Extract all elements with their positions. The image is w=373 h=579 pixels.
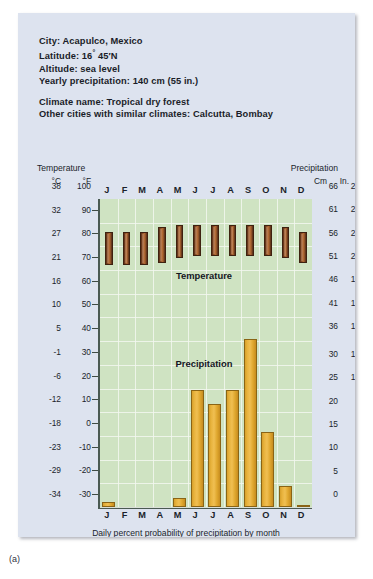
left-axis-tick-mark (92, 233, 98, 234)
left-axis-tick-mark (92, 447, 98, 448)
month-label: N (280, 510, 287, 520)
right-tick-cm: 51 (318, 251, 338, 261)
right-tick-inches: 0 (338, 489, 355, 499)
month-label: N (280, 185, 287, 195)
month-label: A (227, 510, 234, 520)
left-tick-fahrenheit: 40 (61, 323, 91, 333)
temperature-bar (229, 225, 236, 256)
right-tick-inches: 8 (338, 396, 355, 406)
temperature-bar-highlight (248, 227, 250, 254)
right-axis-tick-label: 5622 (318, 228, 355, 238)
left-tick-fahrenheit: 10 (61, 394, 91, 404)
right-tick-cm: 0 (318, 489, 338, 499)
left-tick-fahrenheit: 90 (61, 205, 91, 215)
temperature-bar-highlight (266, 227, 268, 254)
left-tick-celsius: -12 (39, 394, 61, 404)
month-label: A (157, 510, 164, 520)
temperature-bar (246, 225, 253, 256)
left-tick-celsius: 5 (39, 323, 61, 333)
temperature-bar-highlight (178, 227, 180, 256)
month-label: S (245, 510, 251, 520)
month-label: F (122, 510, 128, 520)
left-tick-celsius: 10 (39, 299, 61, 309)
month-label: D (298, 185, 305, 195)
month-label: J (104, 510, 109, 520)
left-axis-tick-label: 1050 (39, 299, 91, 309)
gridline-vertical (259, 199, 260, 507)
temperature-bar-highlight (195, 227, 197, 254)
header-spacer (39, 87, 339, 96)
left-tick-celsius: 32 (39, 205, 61, 215)
figure-root: City: Acapulco, Mexico Latitude: 16° 45′… (0, 0, 373, 579)
precipitation-bar (261, 432, 274, 507)
month-label: J (104, 185, 109, 195)
left-axis-tick-mark (92, 281, 98, 282)
right-tick-inches: 6 (338, 419, 355, 429)
left-axis-tick-label: -130 (39, 347, 91, 357)
gridline-horizontal (100, 507, 312, 508)
left-axis-tick-label: 3290 (39, 205, 91, 215)
left-tick-celsius: -18 (39, 418, 61, 428)
temperature-bar (193, 225, 200, 256)
right-axis-tick-label: 3012 (318, 349, 355, 359)
left-axis-tick-label: -180 (39, 418, 91, 428)
gridline-vertical (118, 199, 119, 507)
left-tick-fahrenheit: 70 (61, 252, 91, 262)
precipitation-bar (279, 486, 292, 507)
month-label: J (210, 185, 215, 195)
right-tick-cm: 61 (318, 204, 338, 214)
temperature-bar-highlight (301, 234, 303, 261)
right-axis-tick-label: 4618 (318, 274, 355, 284)
right-axis-caption: Precipitation (291, 163, 338, 173)
right-tick-cm: 25 (318, 372, 338, 382)
gridline-vertical (224, 199, 225, 507)
left-tick-fahrenheit: -20 (61, 465, 91, 475)
figure-label: (a) (9, 554, 20, 564)
temperature-bar (140, 232, 147, 265)
right-axis-tick-label: 2510 (318, 372, 355, 382)
right-axis-tick-label: 4116 (318, 298, 355, 308)
city-line: City: Acapulco, Mexico (39, 35, 339, 47)
right-tick-inches: 2 (338, 466, 355, 476)
temperature-series-label: Temperature (176, 270, 232, 281)
left-axis-tick-mark (92, 352, 98, 353)
month-label: A (157, 185, 164, 195)
temperature-bar (211, 225, 218, 256)
left-axis-tick-mark (92, 328, 98, 329)
gridline-vertical (294, 199, 295, 507)
left-axis-tick-mark (92, 304, 98, 305)
left-tick-celsius: 27 (39, 228, 61, 238)
temperature-bar (176, 225, 183, 258)
left-axis-tick-label: -620 (39, 371, 91, 381)
left-tick-fahrenheit: 100 (61, 181, 91, 191)
left-axis-tick-mark (92, 399, 98, 400)
right-tick-inches: 12 (338, 349, 355, 359)
right-tick-cm: 15 (318, 419, 338, 429)
left-tick-fahrenheit: -30 (61, 489, 91, 499)
precipitation-bar (191, 390, 204, 507)
latitude-label: Latitude: 16 (39, 51, 92, 61)
right-tick-inches: 10 (338, 372, 355, 382)
left-tick-fahrenheit: 60 (61, 276, 91, 286)
climate-name-line: Climate name: Tropical dry forest (39, 96, 339, 108)
yearly-precipitation-line: Yearly precipitation: 140 cm (55 in.) (39, 75, 339, 87)
left-tick-celsius: 16 (39, 276, 61, 286)
temperature-bar (158, 227, 165, 263)
month-labels-bottom: JFMAMJJASOND (98, 510, 310, 523)
right-tick-inches: 24 (338, 204, 355, 214)
left-tick-fahrenheit: 20 (61, 371, 91, 381)
month-label: M (174, 510, 182, 520)
latitude-rest: 45′N (95, 51, 117, 61)
temperature-bar (282, 227, 289, 258)
left-axis-tick-label: 1660 (39, 276, 91, 286)
left-axis-caption: Temperature (37, 163, 85, 173)
gridline-vertical (241, 199, 242, 507)
left-axis-tick-label: 2170 (39, 252, 91, 262)
temperature-bar (264, 225, 271, 256)
right-tick-inches: 26 (338, 181, 355, 191)
latitude-line: Latitude: 16° 45′N (39, 47, 339, 62)
info-header: City: Acapulco, Mexico Latitude: 16° 45′… (39, 35, 339, 120)
right-axis-tick-label: 156 (318, 419, 355, 429)
left-tick-celsius: -23 (39, 442, 61, 452)
right-axis-tick-label: 5120 (318, 251, 355, 261)
